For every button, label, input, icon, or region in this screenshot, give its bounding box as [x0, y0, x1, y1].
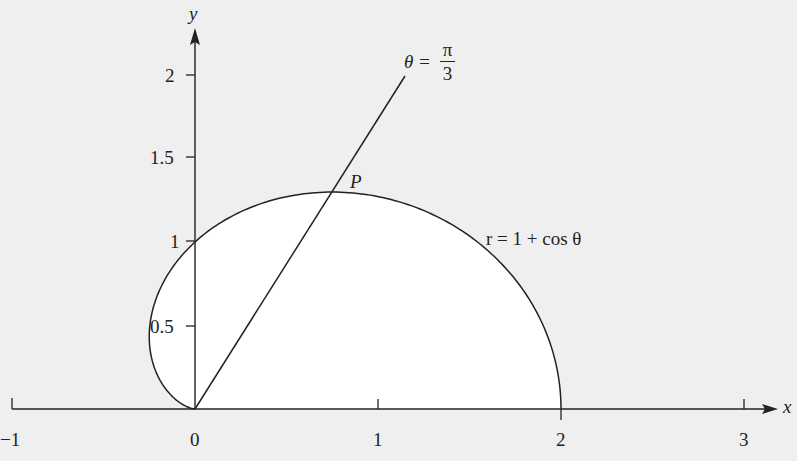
x-tick-label: −1: [0, 430, 20, 449]
x-tick-label: 2: [556, 430, 566, 449]
x-axis-label: x: [783, 397, 791, 416]
x-tick-label: 0: [190, 430, 200, 449]
ray-label-denominator: 3: [443, 64, 453, 83]
ray-label-fraction: π 3: [440, 40, 455, 83]
y-tick-label: 2: [165, 66, 175, 85]
curve-label-text: r = 1 + cos θ: [486, 228, 581, 249]
fraction-bar: [440, 61, 455, 62]
curve-label: r = 1 + cos θ: [486, 229, 581, 248]
point-p-label: P: [350, 172, 362, 191]
y-tick-label: 1.5: [150, 148, 174, 167]
x-tick-label: 3: [739, 430, 749, 449]
polar-plot: [0, 0, 797, 461]
y-axis-label: y: [189, 4, 197, 23]
curve-interior: [149, 192, 561, 409]
y-tick-label: 1: [170, 232, 180, 251]
y-tick-label: 0.5: [150, 317, 174, 336]
ray-label-lhs: θ =: [404, 52, 431, 71]
x-tick-label: 1: [373, 430, 383, 449]
ray-label-numerator: π: [443, 40, 453, 59]
